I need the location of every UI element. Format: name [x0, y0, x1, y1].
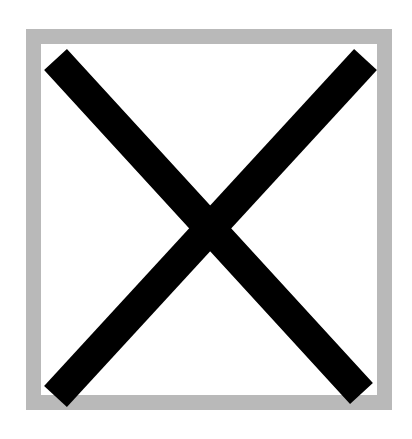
close-icon[interactable]: [0, 0, 412, 439]
